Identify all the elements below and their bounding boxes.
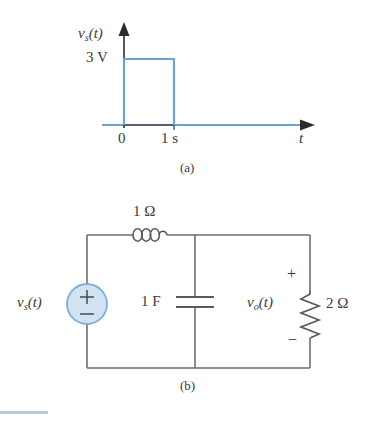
output-polarity-plus: + xyxy=(287,266,296,282)
x-axis-label-t: t xyxy=(299,131,303,146)
load-value-label: 2 Ω xyxy=(326,296,348,311)
y-axis-signal-label: vs(t) xyxy=(78,26,103,43)
series-element-value-label: 1 Ω xyxy=(133,204,155,219)
amplitude-label-3v: 3 V xyxy=(86,50,108,65)
capacitor-value-label: 1 F xyxy=(141,294,161,309)
source-name-label: vs(t) xyxy=(17,295,42,312)
circuit-svg xyxy=(0,190,380,400)
panel-a-caption: (a) xyxy=(180,160,194,176)
panel-a-waveform: vs(t) 3 V 0 1 s t (a) xyxy=(0,0,380,190)
output-voltage-label: vo(t) xyxy=(247,295,273,312)
source-name-arg: (t) xyxy=(28,294,42,310)
x-tick-label-1s: 1 s xyxy=(161,131,178,146)
voltage-axis-arrowhead-icon xyxy=(119,22,130,36)
y-axis-signal-v: v xyxy=(78,25,85,41)
footer-rule xyxy=(0,411,48,414)
pulse-waveform xyxy=(124,59,174,125)
panel-b-caption: (b) xyxy=(180,378,195,394)
x-tick-label-origin: 0 xyxy=(118,131,126,146)
output-polarity-minus: − xyxy=(288,332,297,348)
output-voltage-v: v xyxy=(247,294,254,310)
y-axis-signal-arg: (t) xyxy=(89,25,103,41)
load-resistor-zigzag-icon xyxy=(301,290,319,338)
source-name-v: v xyxy=(17,294,24,310)
figure-page: vs(t) 3 V 0 1 s t (a) xyxy=(0,0,380,422)
series-element-coil-icon xyxy=(133,229,167,241)
time-axis-arrowhead-icon xyxy=(300,120,315,131)
output-voltage-arg: (t) xyxy=(259,294,273,310)
panel-b-circuit: 1 Ω vs(t) 1 F vo(t) + − 2 Ω (b) xyxy=(0,190,380,400)
